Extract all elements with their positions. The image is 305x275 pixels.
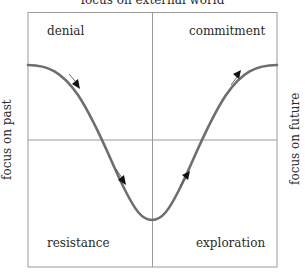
- quadrant-label-denial: denial: [47, 24, 84, 38]
- left-axis-label: focus on past: [0, 100, 14, 180]
- quadrant-label-resistance: resistance: [47, 236, 110, 250]
- quadrant-label-commitment: commitment: [189, 24, 265, 38]
- change-curve-diagram: [0, 0, 305, 275]
- right-axis-label: focus on future: [288, 95, 302, 185]
- quadrant-label-exploration: exploration: [196, 236, 265, 250]
